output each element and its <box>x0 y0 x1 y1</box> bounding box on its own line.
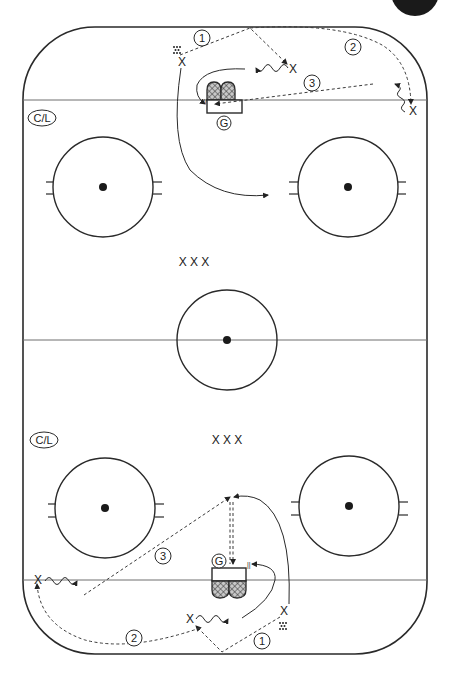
bottom-step-2: 2 <box>131 632 137 644</box>
faceoff-circle-top-left <box>46 137 162 237</box>
faceoff-circle-bottom-right <box>291 456 408 556</box>
faceoff-circle-top-right <box>289 137 406 237</box>
bottom-coach-label: C/L <box>35 434 52 446</box>
bottom-player-1: X <box>280 604 288 618</box>
bottom-goal-crease <box>212 568 246 581</box>
bottom-drill: G X X X 1 || 2 3 <box>34 496 289 652</box>
top-step-2: 2 <box>350 41 356 53</box>
top-drill: G X X X 1 // 2 3 <box>173 27 417 196</box>
svg-text:||: || <box>247 561 251 569</box>
top-player-2: X <box>289 62 297 76</box>
bottom-pucks-icon <box>279 622 287 630</box>
top-net-left <box>207 82 221 100</box>
bottom-step-1: 1 <box>259 635 265 647</box>
hockey-drill-diagram: G X X X 1 // 2 3 C/L X X X <box>0 0 449 678</box>
top-step-1: 1 <box>199 32 205 44</box>
bottom-player-3: X <box>34 573 42 587</box>
svg-text://: // <box>203 98 207 105</box>
top-coach-label: C/L <box>33 112 50 124</box>
top-player-1: X <box>178 55 186 69</box>
top-player-group: X X X <box>179 255 210 269</box>
top-step-3: 3 <box>309 77 315 89</box>
bottom-net-left <box>212 581 229 598</box>
faceoff-circle-bottom-left <box>48 458 164 558</box>
top-player-3: X <box>409 104 417 118</box>
top-pucks-icon <box>173 46 181 54</box>
top-goal-crease <box>207 100 242 113</box>
bottom-goalie-label: G <box>215 555 224 567</box>
bottom-player-2: X <box>186 612 194 626</box>
bottom-step-3: 3 <box>160 550 166 562</box>
top-goalie-label: G <box>220 117 229 129</box>
bottom-player-group: X X X <box>212 433 243 447</box>
bottom-net-right <box>229 581 246 598</box>
top-net-right <box>221 82 235 100</box>
page-marker <box>391 0 439 16</box>
